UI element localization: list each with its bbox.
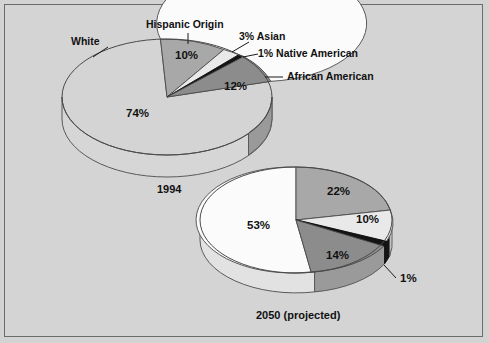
pie1-value-white: 74% <box>126 108 149 120</box>
pie1-caption: 1994 <box>157 184 181 195</box>
pie-chart-2050 <box>196 167 396 293</box>
figure-canvas: White Hispanic Origin 3% Asian 1% Native… <box>0 0 489 343</box>
pie1-label-hispanic: Hispanic Origin <box>146 19 224 30</box>
pie-charts-graphic <box>0 0 489 343</box>
pie2-value-asian: 10% <box>356 214 379 226</box>
pie1-label-white: White <box>71 36 100 47</box>
pie1-side-african <box>249 97 273 155</box>
pie2-leader-native <box>384 265 396 278</box>
pie2-value-native: 1% <box>400 273 417 285</box>
pie1-label-african: African American <box>287 71 374 82</box>
pie2-value-african: 14% <box>326 250 349 262</box>
pie2-value-white: 53% <box>247 220 270 232</box>
pie1-label-native: 1% Native American <box>258 48 358 59</box>
pie1-value-african: 12% <box>224 81 247 93</box>
pie1-value-hispanic: 10% <box>175 50 198 62</box>
pie2-value-hispanic: 22% <box>327 186 350 198</box>
pie2-caption: 2050 (projected) <box>256 310 340 321</box>
pie1-label-asian: 3% Asian <box>239 31 285 42</box>
pie1-leader-white <box>93 47 108 57</box>
pie1-side-white <box>62 97 272 177</box>
